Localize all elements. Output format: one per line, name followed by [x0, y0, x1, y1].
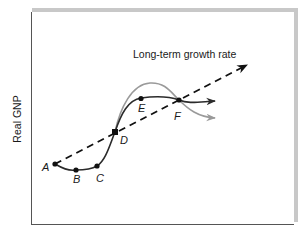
point-a-marker — [52, 161, 57, 166]
business-cycle-curve — [55, 97, 215, 171]
point-a-label: A — [41, 161, 49, 173]
point-e-marker — [138, 96, 143, 101]
point-d-label: D — [120, 134, 128, 146]
growth-cycle-diagram: Real GNP Long-term growth rate A B C D E… — [0, 0, 306, 232]
long-term-growth-trend-line — [55, 65, 247, 164]
point-c-label: C — [96, 172, 104, 184]
point-f-marker — [176, 97, 181, 102]
trend-line-label: Long-term growth rate — [133, 48, 236, 60]
y-axis-label: Real GNP — [11, 95, 23, 142]
frame-top-border — [32, 8, 298, 12]
point-e-label: E — [138, 102, 146, 114]
point-c-marker — [94, 163, 99, 168]
point-d-marker — [112, 129, 118, 135]
point-b-marker — [73, 167, 78, 172]
point-b-label: B — [73, 173, 80, 185]
point-f-label: F — [174, 110, 182, 122]
frame-right-border — [294, 8, 298, 222]
